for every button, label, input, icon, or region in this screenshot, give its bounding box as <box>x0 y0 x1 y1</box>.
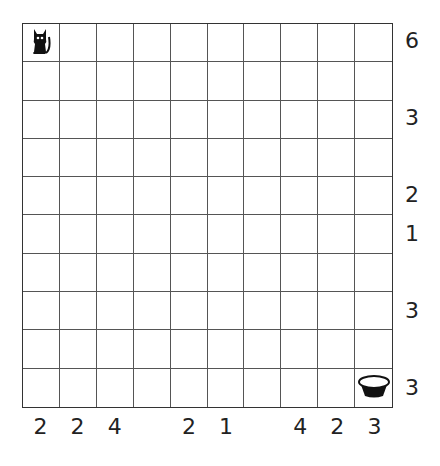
grid-cell[interactable] <box>355 177 392 215</box>
grid-cell[interactable] <box>97 254 134 292</box>
grid-cell[interactable] <box>318 292 355 330</box>
grid-cell[interactable] <box>97 24 134 62</box>
grid-cell[interactable] <box>355 62 392 100</box>
grid-cell[interactable] <box>134 101 171 139</box>
grid-cell[interactable] <box>281 62 318 100</box>
grid-cell[interactable] <box>355 330 392 368</box>
grid-cell[interactable] <box>244 215 281 253</box>
grid-cell[interactable] <box>60 24 97 62</box>
grid-cell[interactable] <box>208 62 245 100</box>
grid-cell[interactable] <box>171 62 208 100</box>
grid-cell[interactable] <box>60 215 97 253</box>
grid-cell[interactable] <box>171 254 208 292</box>
grid-cell[interactable] <box>23 24 60 62</box>
grid-cell[interactable] <box>208 254 245 292</box>
grid-cell[interactable] <box>355 215 392 253</box>
grid-cell[interactable] <box>208 369 245 407</box>
grid-cell[interactable] <box>244 254 281 292</box>
grid-cell[interactable] <box>23 330 60 368</box>
grid-cell[interactable] <box>244 292 281 330</box>
grid-cell[interactable] <box>281 369 318 407</box>
grid-cell[interactable] <box>23 62 60 100</box>
grid-cell[interactable] <box>97 292 134 330</box>
grid-cell[interactable] <box>281 101 318 139</box>
grid-cell[interactable] <box>171 215 208 253</box>
grid-cell[interactable] <box>244 139 281 177</box>
grid-cell[interactable] <box>244 101 281 139</box>
grid-cell[interactable] <box>281 254 318 292</box>
grid-cell[interactable] <box>23 101 60 139</box>
grid-cell[interactable] <box>23 292 60 330</box>
grid-cell[interactable] <box>208 101 245 139</box>
grid-cell[interactable] <box>281 215 318 253</box>
grid-cell[interactable] <box>97 177 134 215</box>
grid-cell[interactable] <box>318 24 355 62</box>
grid-cell[interactable] <box>281 292 318 330</box>
grid-cell[interactable] <box>208 139 245 177</box>
grid-cell[interactable] <box>208 177 245 215</box>
grid-cell[interactable] <box>171 24 208 62</box>
grid-cell[interactable] <box>318 254 355 292</box>
grid-cell[interactable] <box>23 215 60 253</box>
grid-cell[interactable] <box>355 101 392 139</box>
grid-cell[interactable] <box>134 330 171 368</box>
grid-cell[interactable] <box>318 215 355 253</box>
grid-cell[interactable] <box>281 177 318 215</box>
grid-cell[interactable] <box>355 139 392 177</box>
grid-cell[interactable] <box>355 369 392 407</box>
grid-cell[interactable] <box>208 24 245 62</box>
grid-cell[interactable] <box>171 139 208 177</box>
grid-cell[interactable] <box>355 254 392 292</box>
grid-cell[interactable] <box>134 62 171 100</box>
grid-cell[interactable] <box>318 101 355 139</box>
grid-cell[interactable] <box>97 215 134 253</box>
grid-cell[interactable] <box>318 330 355 368</box>
grid-cell[interactable] <box>355 24 392 62</box>
grid-cell[interactable] <box>318 177 355 215</box>
grid-cell[interactable] <box>134 177 171 215</box>
grid-cell[interactable] <box>134 254 171 292</box>
grid-cell[interactable] <box>23 369 60 407</box>
grid-cell[interactable] <box>244 330 281 368</box>
grid-cell[interactable] <box>60 330 97 368</box>
grid-cell[interactable] <box>60 101 97 139</box>
grid-cell[interactable] <box>97 139 134 177</box>
grid-cell[interactable] <box>60 139 97 177</box>
grid-cell[interactable] <box>60 254 97 292</box>
grid-cell[interactable] <box>60 177 97 215</box>
grid-cell[interactable] <box>171 292 208 330</box>
grid-cell[interactable] <box>97 101 134 139</box>
grid-cell[interactable] <box>318 369 355 407</box>
grid-cell[interactable] <box>134 139 171 177</box>
grid-cell[interactable] <box>171 369 208 407</box>
grid-cell[interactable] <box>134 24 171 62</box>
grid-cell[interactable] <box>171 177 208 215</box>
grid-cell[interactable] <box>208 215 245 253</box>
grid-cell[interactable] <box>134 215 171 253</box>
grid-cell[interactable] <box>208 330 245 368</box>
grid-cell[interactable] <box>23 177 60 215</box>
grid-cell[interactable] <box>23 254 60 292</box>
grid-cell[interactable] <box>60 62 97 100</box>
grid-cell[interactable] <box>281 330 318 368</box>
grid-cell[interactable] <box>60 369 97 407</box>
grid-cell[interactable] <box>97 330 134 368</box>
grid-cell[interactable] <box>171 101 208 139</box>
grid-cell[interactable] <box>134 292 171 330</box>
grid-cell[interactable] <box>318 62 355 100</box>
grid-cell[interactable] <box>244 177 281 215</box>
grid-cell[interactable] <box>208 292 245 330</box>
grid-cell[interactable] <box>244 369 281 407</box>
grid-cell[interactable] <box>244 62 281 100</box>
grid-cell[interactable] <box>23 139 60 177</box>
grid-cell[interactable] <box>318 139 355 177</box>
grid-cell[interactable] <box>281 139 318 177</box>
grid-cell[interactable] <box>134 369 171 407</box>
grid-cell[interactable] <box>355 292 392 330</box>
grid-cell[interactable] <box>281 24 318 62</box>
grid-cell[interactable] <box>171 330 208 368</box>
grid-cell[interactable] <box>97 62 134 100</box>
grid-cell[interactable] <box>60 292 97 330</box>
grid-cell[interactable] <box>244 24 281 62</box>
grid-cell[interactable] <box>97 369 134 407</box>
